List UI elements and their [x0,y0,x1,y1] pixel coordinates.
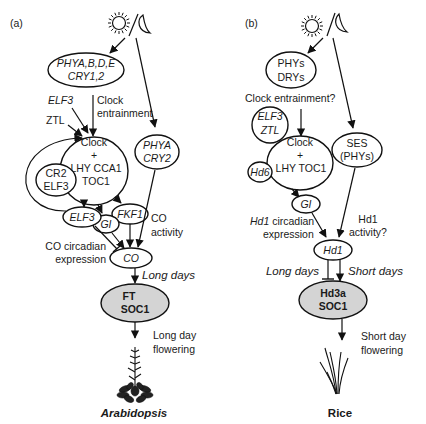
svg-text:LHY CCA1: LHY CCA1 [70,162,121,174]
node-hd3a-soc1: Hd3a SOC1 [299,281,367,319]
svg-text:Clock: Clock [81,136,108,148]
flowering-pathway-diagram: (a) PHYA,B,D,E CRY1,2 [0,0,426,424]
arrow-light-to-photoreceptors [110,38,125,53]
label-long-days-b: Long days [266,265,319,277]
svg-text:PHYA: PHYA [143,139,171,151]
label-clock-entrainment: Clock [97,94,124,106]
label-long-days-a: Long days [142,269,195,281]
arabidopsis-plant-icon [117,347,153,404]
svg-text:TOC1: TOC1 [82,175,110,187]
svg-text:Clock: Clock [287,136,314,148]
node-elf3-ztl: ELF3 ZTL [252,107,288,143]
node-phys-drys: PHYs DRYs [266,52,316,88]
svg-text:ELF3: ELF3 [69,211,94,223]
svg-text:ZTL: ZTL [260,124,280,136]
label-hd1-activity-2: activity? [349,226,387,238]
panel-a: (a) PHYA,B,D,E CRY1,2 [10,12,197,419]
node-elf3: ELF3 [63,207,101,227]
svg-text:SOC1: SOC1 [319,300,348,312]
svg-text:CR2: CR2 [45,167,66,179]
label-hd1-circadian-2: expression [263,228,314,240]
panel-b-label: (b) [245,17,258,29]
day-night-divider [129,14,138,36]
svg-text:PHYA,B,D,E: PHYA,B,D,E [57,57,116,69]
svg-text:SOC1: SOC1 [121,303,150,315]
label-clock-entrainment-2: entrainment [97,107,153,119]
node-hd1: Hd1 [314,240,352,260]
label-short-day-flowering-2: flowering [361,344,403,356]
label-clock-entrainment-b: Clock entrainment? [245,92,336,104]
svg-text:LHY TOC1: LHY TOC1 [276,162,327,174]
node-hd6: Hd6 [248,162,272,182]
label-arabidopsis: Arabidopsis [100,407,167,419]
svg-text:SES: SES [346,137,367,149]
panel-b: (b) PHYs DRYs Clock entrainment? [245,13,407,419]
label-co-circadian-2: expression [55,253,106,265]
svg-text:Hd1: Hd1 [323,244,342,256]
node-cr2-elf3: CR2 ELF3 [36,164,76,196]
node-ft-soc1: FT SOC1 [101,284,169,322]
panel-a-label: (a) [10,17,23,29]
label-long-day-flowering-2: flowering [153,343,195,355]
sun-icon [301,15,323,37]
svg-text:CO: CO [123,252,139,264]
node-phya-b-d-e-cry1-2: PHYA,B,D,E CRY1,2 [48,53,124,87]
label-hd1-circadian: Hd1 circadian [250,215,314,227]
svg-text:+: + [297,149,303,161]
node-ses: SES (PHYs) [332,133,382,167]
svg-text:Hd6: Hd6 [250,166,269,178]
svg-text:FT: FT [123,290,136,302]
sun-icon [108,12,130,34]
svg-text:(PHYs): (PHYs) [340,150,374,162]
svg-text:DRYs: DRYs [277,71,304,83]
node-clock-b: Clock + LHY TOC1 [267,136,333,190]
svg-text:ELF3: ELF3 [43,180,68,192]
arrow-light-to-ses [333,38,353,128]
label-rice: Rice [328,407,352,419]
svg-text:CRY2: CRY2 [143,152,171,164]
svg-text:Hd3a: Hd3a [320,287,346,299]
label-elf3-input: ELF3 [48,94,73,106]
svg-text:ELF3: ELF3 [257,110,282,122]
node-phya-cry2: PHYA CRY2 [135,135,179,169]
arrow-elf3-to-clock [72,108,88,133]
arrow-light-to-phys [308,38,323,53]
label-co-activity: CO [151,212,167,224]
label-long-day-flowering: Long day [153,329,197,341]
label-ztl-input: ZTL [46,114,65,126]
label-short-days: Short days [348,265,403,277]
node-co: CO [110,248,152,268]
rice-plant-icon [320,348,348,394]
moon-icon [336,14,347,32]
moon-icon [139,15,150,33]
arrow-clock-to-fkf1 [115,197,121,203]
arrow-ztl-to-clock [68,125,82,136]
svg-text:PHYs: PHYs [278,57,305,69]
svg-text:GI: GI [300,198,311,210]
svg-text:GI: GI [100,218,111,230]
label-co-activity-2: activity [151,226,184,238]
svg-text:+: + [91,149,97,161]
svg-text:CRY1,2: CRY1,2 [68,70,105,82]
day-night-divider-b [327,13,335,36]
label-co-circadian: CO circadian [45,240,106,252]
node-gi-b: GI [292,195,320,213]
label-hd1-activity: Hd1 [358,213,377,225]
label-short-day-flowering: Short day [361,330,407,342]
svg-text:FKF1: FKF1 [117,208,143,220]
